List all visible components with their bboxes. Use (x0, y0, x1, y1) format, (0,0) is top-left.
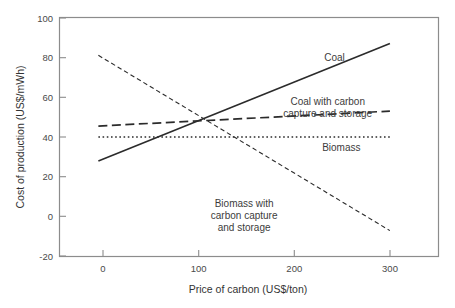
x-tick-label-300: 300 (382, 263, 398, 274)
y-axis-tick-labels: 100 80 60 40 20 0 -20 (37, 13, 53, 262)
y-axis-title: Cost of production (US$/mWh) (14, 66, 26, 209)
y-tick-label-60: 60 (42, 92, 53, 103)
y-tick-label-100: 100 (37, 13, 53, 24)
x-axis-title: Price of carbon (US$/ton) (189, 283, 307, 295)
series-label-biomass: Biomass (322, 142, 360, 153)
series-labels-group: Coal Coal with carboncapture and storage… (211, 52, 373, 232)
y-tick-label-minus20: -20 (39, 251, 53, 262)
figure-container: 100 80 60 40 20 0 -20 0 100 200 300 Pric… (0, 0, 455, 308)
x-tick-label-200: 200 (286, 263, 302, 274)
y-axis-ticks (60, 18, 67, 256)
y-tick-label-80: 80 (42, 52, 53, 63)
x-axis-tick-labels: 0 100 200 300 (100, 263, 398, 274)
series-label-coal-ccs: Coal with carboncapture and storage (283, 96, 372, 119)
x-axis-ticks (103, 250, 390, 257)
y-tick-label-40: 40 (42, 132, 53, 143)
series-label-biomass-ccs: Biomass withcarbon captureand storage (211, 198, 278, 233)
y-tick-label-0: 0 (48, 211, 53, 222)
line-chart: 100 80 60 40 20 0 -20 0 100 200 300 Pric… (0, 0, 455, 308)
x-tick-label-0: 0 (100, 263, 105, 274)
x-tick-label-100: 100 (191, 263, 207, 274)
series-label-coal: Coal (324, 52, 345, 63)
y-tick-label-20: 20 (42, 171, 53, 182)
